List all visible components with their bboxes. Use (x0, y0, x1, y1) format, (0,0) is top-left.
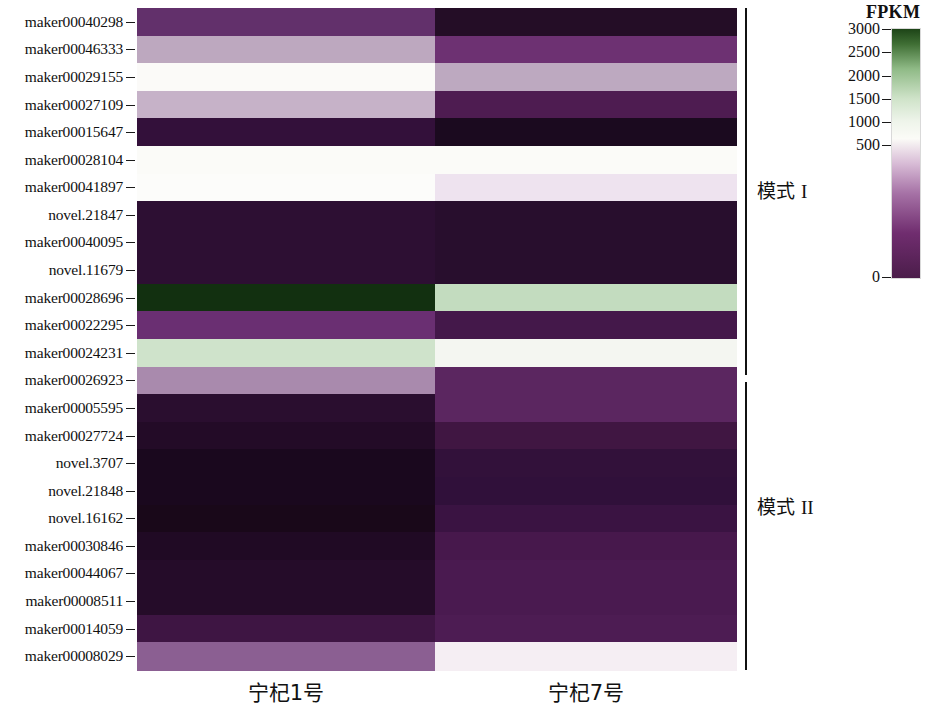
heatmap-cell (137, 229, 435, 257)
row-label-text: maker00008511 (25, 592, 123, 609)
colorbar-tick-mark (882, 122, 891, 123)
heatmap-row (137, 174, 737, 202)
heatmap-cell (137, 8, 435, 36)
heatmap-row (137, 642, 737, 670)
row-label: novel.21848 (48, 484, 137, 498)
row-tick-mark (126, 132, 135, 133)
row-label-text: maker00040095 (25, 233, 123, 250)
row-label-text: maker00027724 (25, 427, 123, 444)
heatmap-cell (137, 284, 435, 312)
group-label-2-roman: II (795, 497, 814, 518)
heatmap-cell (137, 256, 435, 284)
colorbar-tick-mark (882, 145, 891, 146)
row-label-text: maker00026923 (25, 371, 123, 388)
heatmap-row (137, 118, 737, 146)
row-tick-mark (126, 325, 135, 326)
heatmap-cell (137, 477, 435, 505)
row-label: maker00046333 (25, 42, 137, 56)
heatmap-cell (137, 394, 435, 422)
row-tick-mark (126, 601, 135, 602)
row-label: novel.3707 (56, 456, 137, 470)
heatmap-row (137, 477, 737, 505)
row-tick-mark (126, 656, 135, 657)
heatmap-cell (435, 174, 737, 202)
heatmap-row (137, 229, 737, 257)
row-label-axis: maker00040298maker00046333maker00029155m… (0, 0, 137, 670)
heatmap-row (137, 339, 737, 367)
row-tick-mark (126, 353, 135, 354)
colorbar-tick-label: 2500 (848, 43, 880, 60)
heatmap-cell (435, 394, 737, 422)
colorbar-tick: 2500 (848, 46, 891, 58)
heatmap-cell (137, 339, 435, 367)
colorbar-tick: 0 (872, 271, 891, 283)
row-tick-mark (126, 380, 135, 381)
row-label-text: maker00024231 (25, 344, 123, 361)
heatmap-cell (435, 63, 737, 91)
heatmap-cell (435, 118, 737, 146)
row-label-text: maker00027109 (25, 96, 123, 113)
row-label-text: maker00015647 (25, 123, 123, 140)
heatmap-row (137, 587, 737, 615)
colorbar-tick: 500 (856, 139, 891, 151)
heatmap-cell (137, 311, 435, 339)
heatmap-cell (137, 505, 435, 533)
heatmap-row (137, 394, 737, 422)
row-label: maker00022295 (25, 318, 137, 332)
group-label-2: 模式II (757, 492, 814, 519)
colorbar-gradient (891, 28, 921, 279)
heatmap-row (137, 615, 737, 643)
heatmap-row (137, 284, 737, 312)
row-label-text: maker00014059 (25, 620, 123, 637)
colorbar-tick-mark (882, 277, 891, 278)
colorbar-tick-label: 2000 (848, 67, 880, 84)
heatmap-row (137, 146, 737, 174)
heatmap-cell (435, 532, 737, 560)
row-tick-mark (126, 77, 135, 78)
row-label-text: maker00008029 (25, 647, 123, 664)
row-tick-mark (126, 408, 135, 409)
colorbar-tick-label: 1500 (848, 90, 880, 107)
row-label: maker00041897 (25, 180, 137, 194)
row-label: maker00026923 (25, 373, 137, 387)
row-label-text: maker00044067 (25, 564, 123, 581)
row-tick-mark (126, 270, 135, 271)
group-label-1-text: 模式 (757, 180, 795, 202)
colorbar-tick-mark (882, 52, 891, 53)
row-label-text: maker00046333 (25, 40, 123, 57)
heatmap-cell (435, 449, 737, 477)
row-label: novel.16162 (48, 511, 137, 525)
heatmap-cell (435, 311, 737, 339)
heatmap-cell (435, 367, 737, 395)
heatmap-cell (137, 146, 435, 174)
row-tick-mark (126, 22, 135, 23)
heatmap-row (137, 256, 737, 284)
colorbar-tick-label: 1000 (848, 113, 880, 130)
heatmap-row (137, 311, 737, 339)
column-label-0: 宁杞1号 (186, 676, 386, 706)
group-bracket-1 (745, 8, 747, 375)
row-tick-mark (126, 573, 135, 574)
row-tick-mark (126, 242, 135, 243)
group-label-1-roman: I (795, 181, 807, 202)
heatmap-row (137, 91, 737, 119)
heatmap-cell (435, 642, 737, 670)
heatmap-cell (435, 201, 737, 229)
row-label-text: maker00028104 (25, 151, 123, 168)
row-tick-mark (126, 546, 135, 547)
heatmap-cell (137, 587, 435, 615)
heatmap-cell (435, 339, 737, 367)
group-label-1: 模式I (757, 176, 807, 203)
row-label: maker00005595 (25, 401, 137, 415)
row-label: maker00029155 (25, 70, 137, 84)
row-label: maker00014059 (25, 622, 137, 636)
row-label: maker00027109 (25, 98, 137, 112)
colorbar-tick: 3000 (848, 23, 891, 35)
row-label: maker00028104 (25, 153, 137, 167)
heatmap-cell (137, 91, 435, 119)
colorbar-tick-mark (882, 29, 891, 30)
row-label-text: maker00005595 (25, 399, 123, 416)
heatmap-cell (137, 449, 435, 477)
row-label: maker00024231 (25, 346, 137, 360)
